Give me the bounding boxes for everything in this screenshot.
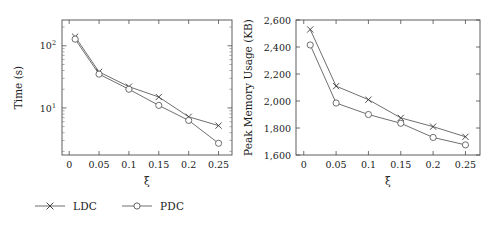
y-axis-title: Peak Memory Usage (KB) <box>242 19 254 156</box>
data-point-ldc <box>430 124 436 130</box>
data-point-pdc <box>186 117 192 123</box>
legend-label-ldc: LDC <box>73 200 97 212</box>
x-tick-label: 0.25 <box>208 159 229 170</box>
data-point-pdc <box>96 71 102 77</box>
data-point-pdc <box>126 86 132 92</box>
plot-frame <box>296 20 480 155</box>
x-tick-label: 0.2 <box>426 159 441 170</box>
data-point-pdc <box>72 36 78 42</box>
figure-legend: LDC PDC <box>0 196 493 233</box>
x-axis-title: ξ <box>385 175 391 187</box>
series-line-pdc <box>75 39 218 143</box>
y-tick-label: 2,200 <box>264 69 291 80</box>
x-axis-title: ξ <box>144 175 150 187</box>
x-tick-label: 0.05 <box>326 159 347 170</box>
circle-marker-icon <box>121 200 153 212</box>
y-tick-label: 1,800 <box>264 123 291 134</box>
time-chart-svg: 00.050.10.150.20.25101102ξTime (s) <box>0 0 240 196</box>
legend-entries: LDC PDC <box>34 200 208 212</box>
chart-panel-time: 00.050.10.150.20.25101102ξTime (s) <box>0 0 240 196</box>
y-tick-label: 101 <box>40 102 56 114</box>
y-tick-label: 1,600 <box>264 150 291 161</box>
legend-entry-ldc: LDC <box>34 200 121 212</box>
data-point-ldc <box>215 123 221 129</box>
plot-frame <box>62 20 232 155</box>
x-tick-label: 0 <box>66 159 72 170</box>
data-point-pdc <box>215 140 221 146</box>
y-tick-label: 2,400 <box>264 42 291 53</box>
x-tick-label: 0.1 <box>121 159 136 170</box>
x-tick-label: 0.25 <box>455 159 476 170</box>
data-point-ldc <box>462 134 468 140</box>
x-tick-label: 0.15 <box>148 159 169 170</box>
memory-chart-svg: 00.050.10.150.20.251,6001,8002,0002,2002… <box>240 0 493 196</box>
y-tick-label: 102 <box>40 39 56 51</box>
legend-label-pdc: PDC <box>160 200 184 212</box>
legend-entry-pdc: PDC <box>121 200 208 212</box>
series-line-ldc <box>75 37 218 126</box>
data-point-ldc <box>156 94 162 100</box>
data-point-pdc <box>156 102 162 108</box>
data-point-pdc <box>462 142 468 148</box>
y-axis-title: Time (s) <box>12 66 24 109</box>
chart-panels: 00.050.10.150.20.25101102ξTime (s) 00.05… <box>0 0 493 196</box>
data-point-pdc <box>430 134 436 140</box>
data-point-ldc <box>365 97 371 103</box>
x-marker-icon <box>34 200 66 212</box>
x-tick-label: 0.1 <box>361 159 376 170</box>
figure-two-panel-line-charts: 00.050.10.150.20.25101102ξTime (s) 00.05… <box>0 0 493 233</box>
x-tick-label: 0 <box>301 159 307 170</box>
chart-panel-memory: 00.050.10.150.20.251,6001,8002,0002,2002… <box>240 0 493 196</box>
data-point-pdc <box>398 120 404 126</box>
data-point-pdc <box>333 100 339 106</box>
x-tick-label: 0.05 <box>88 159 109 170</box>
y-tick-label: 2,600 <box>264 15 291 26</box>
data-point-pdc <box>307 42 313 48</box>
x-tick-label: 0.2 <box>181 159 196 170</box>
data-point-pdc <box>365 111 371 117</box>
x-tick-label: 0.15 <box>390 159 411 170</box>
data-point-ldc <box>307 26 313 32</box>
y-tick-label: 2,000 <box>264 96 291 107</box>
data-point-ldc <box>333 83 339 89</box>
